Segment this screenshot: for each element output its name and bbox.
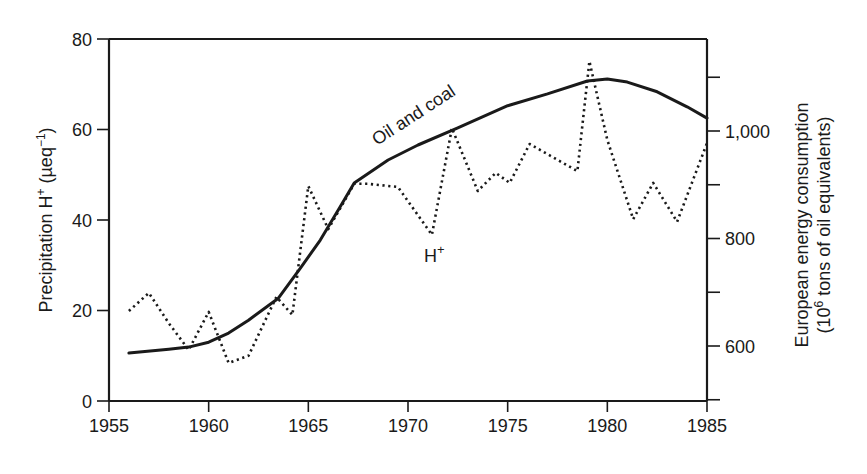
x-tick-label: 1960	[189, 416, 229, 436]
right-y-axis-title-line2: (106 tons of oil equivalents)	[812, 117, 834, 334]
y-tick-label: 40	[72, 211, 92, 231]
y-tick-label: 80	[72, 30, 92, 50]
y2-tick-label: 600	[725, 337, 755, 357]
x-tick-label: 1975	[488, 416, 528, 436]
x-tick-label: 1955	[89, 416, 129, 436]
left-y-axis-title: Precipitation H+ (µeq−1)	[34, 127, 56, 312]
oil-and-coal-label: Oil and coal	[368, 81, 459, 150]
right-y-axis-title-line1: European energy consumption	[792, 102, 812, 347]
x-tick-label: 1965	[288, 416, 328, 436]
left-y-axis-ticks: 020406080	[72, 30, 109, 412]
x-axis-ticks: 1955196019651970197519801985	[89, 401, 727, 436]
y-tick-label: 60	[72, 120, 92, 140]
y-tick-label: 20	[72, 301, 92, 321]
y-tick-label: 0	[82, 392, 92, 412]
x-tick-label: 1980	[587, 416, 627, 436]
y2-tick-label: 1,000	[725, 122, 770, 142]
x-tick-label: 1970	[388, 416, 428, 436]
dual-axis-line-chart: 1955196019651970197519801985 020406080 6…	[0, 0, 867, 474]
plot-frame	[109, 39, 707, 401]
h-plus-label: H+	[424, 242, 445, 266]
x-tick-label: 1985	[687, 416, 727, 436]
y2-tick-label: 800	[725, 229, 755, 249]
right-y-axis-ticks: 6008001,000	[707, 77, 770, 400]
